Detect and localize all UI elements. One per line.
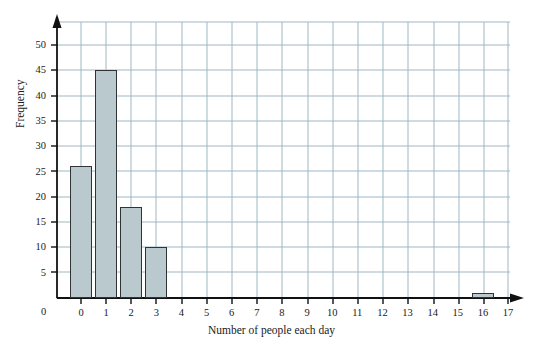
y-axis-title: Frequency: [14, 79, 26, 128]
x-tick-label: 0: [78, 308, 83, 319]
x-tick-label: 6: [229, 308, 234, 319]
y-tick-label: 15: [20, 217, 46, 228]
x-tick-label: 13: [402, 308, 413, 319]
y-tick-label: 5: [20, 267, 46, 278]
chart-canvas: [0, 0, 543, 349]
y-tick-label: 45: [20, 65, 46, 76]
x-tick-label: 15: [453, 308, 464, 319]
x-tick-label: 2: [129, 308, 134, 319]
y-tick-label: 25: [20, 166, 46, 177]
y-tick-label: 10: [20, 242, 46, 253]
gridlines-vertical: [81, 22, 508, 298]
x-tick-label: 14: [427, 308, 438, 319]
x-tick-label: 10: [327, 308, 338, 319]
x-tick-label: 11: [352, 308, 362, 319]
x-tick-label: 4: [179, 308, 184, 319]
y-tick-label: 30: [20, 141, 46, 152]
y-axis: [53, 14, 62, 298]
x-tick-label: 12: [377, 308, 388, 319]
x-tick-label: 7: [254, 308, 259, 319]
gridlines-horizontal: [56, 22, 510, 298]
y-tick-label: 20: [20, 192, 46, 203]
x-axis: [57, 294, 524, 303]
origin-label: 0: [41, 306, 46, 317]
x-tick-label: 16: [478, 308, 489, 319]
x-tick-label: 17: [503, 308, 514, 319]
x-tick-label: 8: [279, 308, 284, 319]
y-tick-label: 50: [20, 40, 46, 51]
x-tick-label: 3: [154, 308, 159, 319]
x-axis-title: Number of people each day: [0, 324, 543, 336]
frequency-bar-chart: 5101520253035404550 01234567891011121314…: [0, 0, 543, 349]
x-tick-label: 5: [204, 308, 209, 319]
x-tick-label: 1: [103, 308, 108, 319]
x-tick-label: 9: [304, 308, 309, 319]
